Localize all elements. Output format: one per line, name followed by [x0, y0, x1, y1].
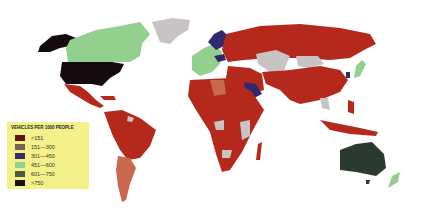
legend-label: <151 [31, 135, 43, 141]
region-usa [60, 62, 124, 86]
legend-label: >750 [31, 180, 43, 186]
legend-item: 151—300 [11, 142, 85, 151]
legend-item: 601—750 [11, 169, 85, 178]
legend-item: 451—600 [11, 160, 85, 169]
region-korea [346, 72, 350, 78]
legend: VEHICLES PER 1000 PEOPLE <151 151—300 30… [7, 122, 89, 189]
region-canada [66, 22, 150, 62]
region-mexico [64, 84, 104, 108]
legend-label: 451—600 [31, 162, 55, 168]
region-philippines [348, 100, 354, 114]
region-indochina [320, 98, 330, 110]
legend-label: 301—450 [31, 153, 55, 159]
legend-item: <151 [11, 133, 85, 142]
legend-swatch [15, 153, 25, 159]
legend-label: 151—300 [31, 144, 55, 150]
region-argentina [116, 156, 136, 202]
legend-item: >750 [11, 178, 85, 187]
region-caribbean [100, 96, 116, 100]
region-greenland [152, 18, 190, 44]
region-australia [340, 142, 386, 176]
region-tasmania [366, 180, 370, 184]
legend-item: 301—450 [11, 151, 85, 160]
region-japan [354, 60, 366, 78]
legend-label: 601—750 [31, 171, 55, 177]
region-new-zealand [388, 172, 400, 188]
legend-swatch [15, 144, 25, 150]
region-china-india [262, 66, 348, 104]
region-indonesia [320, 120, 378, 136]
legend-title: VEHICLES PER 1000 PEOPLE [11, 125, 85, 130]
legend-swatch [15, 180, 25, 186]
region-madagascar [256, 142, 262, 160]
legend-swatch [15, 135, 25, 141]
legend-swatch [15, 171, 25, 177]
legend-swatch [15, 162, 25, 168]
